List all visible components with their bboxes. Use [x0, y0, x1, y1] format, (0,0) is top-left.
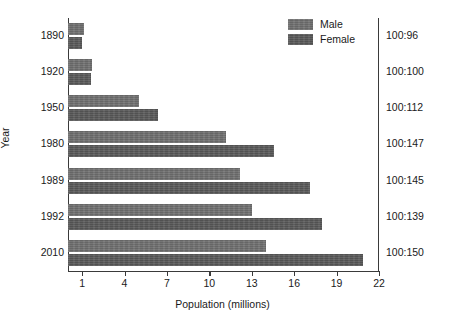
ratio-label-1950: 100:112 — [386, 102, 423, 113]
legend: MaleFemale — [288, 18, 355, 48]
ratio-label-1980: 100:147 — [386, 138, 424, 149]
x-tick-label-13: 13 — [237, 278, 267, 289]
legend-swatch-female — [288, 34, 313, 45]
secondary-axis-labels: 100:96100:100100:112100:147100:145100:13… — [386, 18, 456, 271]
ratio-label-1989: 100:145 — [386, 175, 424, 186]
legend-item-male: Male — [288, 18, 355, 31]
x-tick-label-19: 19 — [322, 278, 352, 289]
plot-area — [68, 18, 379, 271]
y-tick-label-1989: 1989 — [4, 175, 64, 186]
x-tick-label-4: 4 — [110, 278, 140, 289]
x-tick-label-22: 22 — [364, 278, 394, 289]
x-tick-mark-22 — [379, 271, 380, 276]
bar-male-1950 — [68, 95, 139, 107]
y-axis-tick-labels: 1890192019501980198919922010 — [0, 18, 64, 271]
ratio-label-1992: 100:139 — [386, 211, 424, 222]
bar-female-1989 — [68, 182, 310, 194]
x-tick-mark-19 — [337, 271, 338, 276]
x-tick-mark-7 — [167, 271, 168, 276]
ratio-label-1920: 100:100 — [386, 66, 424, 77]
legend-swatch-male — [288, 19, 313, 30]
bar-male-1989 — [68, 168, 240, 180]
bar-female-1890 — [68, 37, 82, 49]
bar-female-1992 — [68, 218, 322, 230]
y-tick-label-1992: 1992 — [4, 211, 64, 222]
x-axis-title: Population (millions) — [0, 298, 469, 310]
legend-label-male: Male — [320, 19, 343, 30]
bar-female-1950 — [68, 109, 158, 121]
bar-male-1920 — [68, 59, 92, 71]
x-tick-mark-13 — [252, 271, 253, 276]
y-tick-label-2010: 2010 — [4, 247, 64, 258]
x-tick-mark-4 — [125, 271, 126, 276]
bar-male-2010 — [68, 240, 266, 252]
x-tick-mark-1 — [82, 271, 83, 276]
y-tick-label-1980: 1980 — [4, 138, 64, 149]
bar-female-1980 — [68, 145, 274, 157]
bar-male-1992 — [68, 204, 252, 216]
x-tick-mark-10 — [209, 271, 210, 276]
ratio-label-1890: 100:96 — [386, 30, 418, 41]
x-axis-ticks: 1471013161922 — [68, 271, 383, 301]
bar-female-1920 — [68, 73, 91, 85]
x-tick-label-16: 16 — [279, 278, 309, 289]
x-tick-label-1: 1 — [67, 278, 97, 289]
legend-label-female: Female — [320, 34, 355, 45]
bar-male-1980 — [68, 131, 226, 143]
bar-female-2010 — [68, 254, 363, 266]
ratio-label-2010: 100:150 — [386, 247, 424, 258]
legend-item-female: Female — [288, 33, 355, 46]
y-tick-label-1890: 1890 — [4, 30, 64, 41]
bar-chart: Year 1890192019501980198919922010 147101… — [0, 0, 469, 321]
y-tick-label-1920: 1920 — [4, 66, 64, 77]
x-tick-label-7: 7 — [152, 278, 182, 289]
x-axis-title-text: Population (millions) — [175, 298, 270, 310]
x-tick-mark-16 — [294, 271, 295, 276]
x-tick-label-10: 10 — [194, 278, 224, 289]
bar-male-1890 — [68, 23, 84, 35]
y-tick-label-1950: 1950 — [4, 102, 64, 113]
